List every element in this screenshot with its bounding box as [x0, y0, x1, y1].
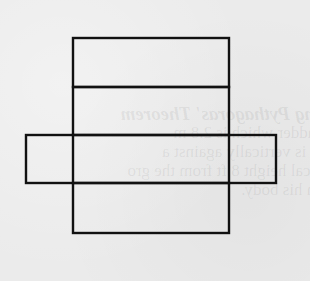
top-flap-face	[73, 38, 229, 87]
bottom-face	[73, 183, 229, 233]
middle-band	[26, 135, 276, 183]
cuboid-net-diagram	[0, 0, 310, 281]
net-edges	[26, 38, 276, 233]
upper-face	[73, 87, 229, 135]
